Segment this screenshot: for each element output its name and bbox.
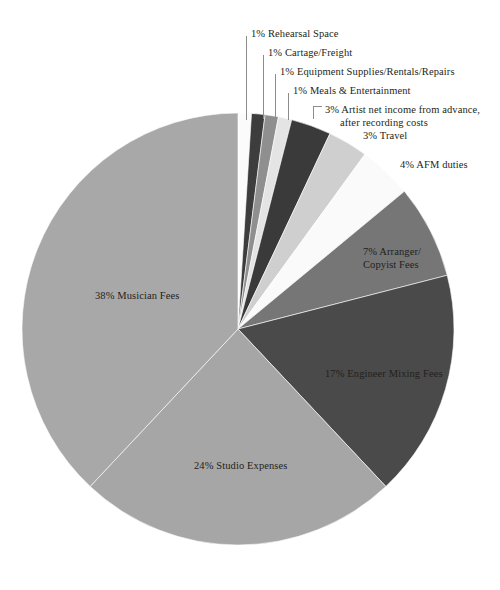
slice-label-travel: 3% Travel — [363, 130, 407, 143]
slice-label-cartage-freight: 1% Cartage/Freight — [268, 47, 352, 60]
slice-label-artist-net-income-line2: after recording costs — [340, 117, 428, 130]
slice-label-musician-fees: 38% Musician Fees — [95, 290, 180, 303]
slice-label-arranger-copyist-line2: Copyist Fees — [363, 259, 419, 272]
pie-chart: 1% Rehearsal Space 1% Cartage/Freight 1%… — [0, 0, 500, 590]
pie-slices-group — [0, 0, 500, 590]
slice-label-studio-expenses: 24% Studio Expenses — [194, 460, 287, 473]
slice-label-arranger-copyist-line1: 7% Arranger/ — [363, 246, 421, 259]
leader-elbow-artist-net-income — [313, 106, 322, 107]
leader-line-meals-entertainment — [288, 93, 289, 120]
slice-label-equipment-supplies: 1% Equipment Supplies/Rentals/Repairs — [280, 66, 455, 79]
leader-line-rehearsal-space — [246, 36, 247, 120]
slice-label-rehearsal-space: 1% Rehearsal Space — [251, 28, 339, 41]
slice-label-afm-duties: 4% AFM duties — [400, 159, 468, 172]
slice-label-artist-net-income-line1: 3% Artist net income from advance, — [325, 104, 480, 117]
leader-line-cartage-freight — [263, 55, 264, 119]
slice-label-engineer-mixing-fees: 17% Engineer Mixing Fees — [325, 368, 443, 381]
leader-line-equipment-supplies — [275, 74, 276, 119]
leader-line-artist-net-income — [313, 106, 314, 119]
slice-label-meals-entertainment: 1% Meals & Entertainment — [293, 85, 411, 98]
